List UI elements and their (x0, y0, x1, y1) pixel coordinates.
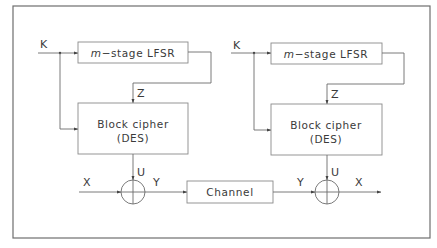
dec-y-label: Y (296, 176, 304, 189)
dec-key-to-cipher-arrow (254, 53, 271, 130)
enc-xor-icon (121, 180, 145, 204)
enc-key-to-cipher-arrow (60, 53, 78, 129)
dec-lfsr-rest: −stage LFSR (295, 48, 369, 60)
enc-z-label: Z (137, 87, 145, 100)
decryptor: K m−stage LFSR Z Block cipher (DES) U Y … (231, 39, 404, 204)
dec-cipher-line2: (DES) (310, 133, 343, 145)
enc-lfsr-label: m−stage LFSR (91, 47, 175, 59)
enc-cipher-line1: Block cipher (97, 118, 169, 130)
encryptor: K m−stage LFSR Z Block cipher (DES) U X … (38, 38, 211, 204)
enc-u-label: U (137, 166, 145, 179)
enc-lfsr-rest: −stage LFSR (102, 47, 176, 59)
enc-y-label: Y (152, 176, 160, 189)
enc-key-label: K (40, 38, 48, 51)
dec-lfsr-m: m (284, 48, 295, 60)
dec-cipher-line1: Block cipher (290, 119, 362, 131)
dec-x-label: X (355, 176, 363, 189)
enc-cipher-line2: (DES) (117, 132, 150, 144)
dec-xor-icon (315, 180, 339, 204)
cipher-diagram: K m−stage LFSR Z Block cipher (DES) U X … (0, 0, 437, 248)
dec-key-label: K (233, 39, 241, 52)
enc-x-label: X (83, 176, 91, 189)
enc-lfsr-m: m (91, 47, 102, 59)
dec-z-label: Z (331, 88, 339, 101)
channel-label: Channel (206, 186, 253, 198)
dec-lfsr-label: m−stage LFSR (284, 48, 368, 60)
dec-u-label: U (331, 166, 339, 179)
